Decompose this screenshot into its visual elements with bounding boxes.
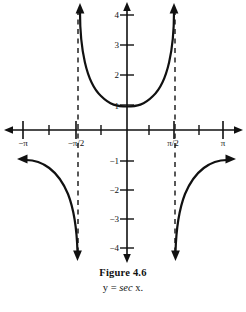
equation-lhs: y =	[103, 282, 119, 293]
x-tick-label-neg-pi: −π	[18, 139, 28, 148]
left-branch-down-arrow-icon	[73, 251, 82, 262]
y-tick-label-neg-2: −2	[101, 186, 119, 195]
y-tick-label-3: 3	[103, 41, 119, 50]
y-axis	[120, 2, 134, 263]
x-tick-label-pi-over-2: π/2	[167, 139, 179, 148]
y-axis-down-arrow-icon	[123, 254, 131, 263]
y-axis-up-arrow-icon	[123, 2, 131, 11]
right-branch-right-arrow-icon	[226, 155, 237, 164]
y-tick-label-2: 2	[103, 71, 119, 80]
y-tick-label-neg-4: −4	[101, 244, 119, 253]
left-lower-branch	[17, 155, 82, 261]
y-tick-label-neg-1: −1	[101, 157, 119, 166]
equation-rhs: x.	[133, 282, 144, 293]
x-tick-label-neg-pi-over-2: −π/2	[68, 139, 85, 148]
center-branch-left-up-arrow-icon	[76, 3, 85, 14]
figure-caption-equation: y = sec x.	[0, 281, 246, 295]
x-tick-label-pi: π	[221, 139, 226, 148]
x-axis	[4, 121, 243, 139]
x-axis-left-arrow-icon	[4, 126, 13, 134]
right-lower-branch	[171, 155, 236, 261]
y-tick-label-4: 4	[103, 11, 119, 20]
y-tick-label-neg-3: −3	[101, 215, 119, 224]
left-branch-left-arrow-icon	[17, 155, 28, 164]
right-branch-down-arrow-icon	[171, 251, 180, 262]
x-axis-right-arrow-icon	[234, 126, 243, 134]
figure-caption: Figure 4.6 y = sec x.	[0, 266, 246, 295]
equation-function-name: sec	[119, 282, 132, 293]
figure-container: −π −π/2 π/2 π 4 3 2 1 −1 −2 −3 −4 Figure…	[0, 0, 246, 312]
figure-caption-title: Figure 4.6	[0, 266, 246, 279]
y-tick-label-1: 1	[103, 102, 119, 111]
center-branch-right-up-arrow-icon	[170, 3, 179, 14]
